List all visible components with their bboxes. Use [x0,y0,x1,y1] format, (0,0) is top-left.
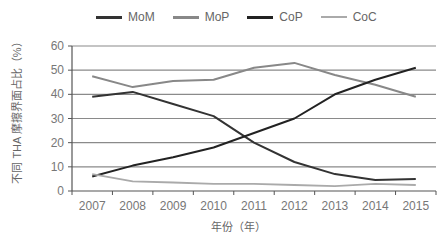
x-axis-label: 年份（年） [0,218,446,234]
series-line-cop [92,68,416,177]
y-tick-label: 30 [51,112,65,126]
x-tick-label: 2009 [160,199,187,213]
line-chart: 0102030405060 20072008200920102011201220… [0,0,446,243]
series-line-coc [92,174,416,186]
y-tick-label: 0 [57,184,64,198]
series-line-mop [92,63,416,97]
x-tick-label: 2014 [362,199,389,213]
y-tick-label: 10 [51,160,65,174]
x-tick-label: 2007 [79,199,106,213]
x-tick-label: 2011 [241,199,267,213]
data-lines [92,63,416,186]
y-tick-label: 50 [51,63,65,77]
y-axis-label: 不同 THA 摩擦界面占比（%） [8,30,24,190]
x-tick-label: 2013 [322,199,349,213]
y-tick-label: 60 [51,39,65,53]
y-tick-labels: 0102030405060 [51,39,65,198]
gridlines [72,46,436,167]
x-tick-label: 2008 [119,199,146,213]
y-tick-label: 40 [51,87,65,101]
x-tick-label: 2015 [402,199,429,213]
x-tick-label: 2012 [281,199,308,213]
x-tick-label: 2010 [200,199,227,213]
y-tick-label: 20 [51,136,65,150]
x-tick-labels: 200720082009201020112012201320142015 [79,199,430,213]
